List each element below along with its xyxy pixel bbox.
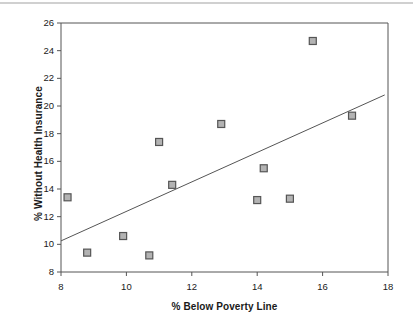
- trend-line: [61, 95, 385, 241]
- data-point-marker: [146, 252, 153, 259]
- plot-area: [0, 0, 413, 328]
- data-point-marker: [120, 233, 127, 240]
- data-point-marker: [349, 112, 356, 119]
- data-point-marker: [254, 197, 261, 204]
- trend-line-path: [61, 95, 385, 241]
- data-point-marker: [169, 181, 176, 188]
- data-point-marker: [64, 194, 71, 201]
- data-points: [64, 37, 355, 258]
- data-point-marker: [260, 165, 267, 172]
- scatter-chart: % Without Health Insurance % Below Pover…: [0, 0, 413, 328]
- axes: [57, 23, 388, 276]
- data-point-marker: [218, 120, 225, 127]
- data-point-marker: [156, 138, 163, 145]
- data-point-marker: [286, 195, 293, 202]
- data-point-marker: [84, 249, 91, 256]
- data-point-marker: [309, 37, 316, 44]
